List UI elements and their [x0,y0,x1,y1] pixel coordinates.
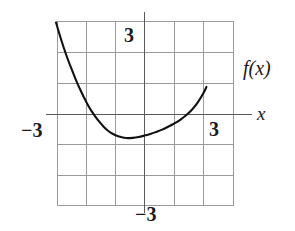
function-graph-figure: f(x) x 3 3 −3 −3 [0,0,295,231]
y-axis-tick-label-positive-3: 3 [124,25,134,45]
function-label: f(x) [243,58,271,78]
x-axis-tick-label-negative-3: −3 [21,120,42,140]
x-axis-tick-label-positive-3: 3 [209,119,219,139]
y-axis-tick-label-negative-3: −3 [135,204,156,224]
x-axis-label: x [257,104,265,123]
plot-canvas [0,0,295,231]
plot-background [0,0,295,231]
